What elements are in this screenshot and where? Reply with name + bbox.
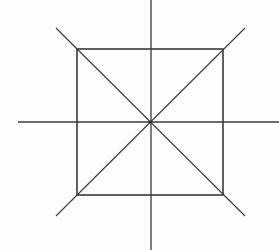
center-point (149, 121, 152, 124)
square-diagram (0, 0, 279, 250)
page-background (0, 0, 279, 250)
